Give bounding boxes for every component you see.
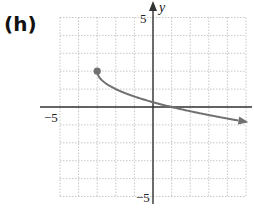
y-tick-neg5: −5	[136, 190, 150, 205]
start-point-dot	[94, 68, 101, 75]
function-curve	[94, 68, 249, 125]
y-tick-5: 5	[140, 11, 147, 26]
y-axis-arrow-icon	[149, 1, 157, 11]
y-axis-label: y	[157, 0, 166, 15]
x-tick-neg5: −5	[44, 110, 58, 125]
graph: y 5 −5 −5	[0, 0, 254, 208]
curve-arrow-icon	[238, 117, 249, 125]
